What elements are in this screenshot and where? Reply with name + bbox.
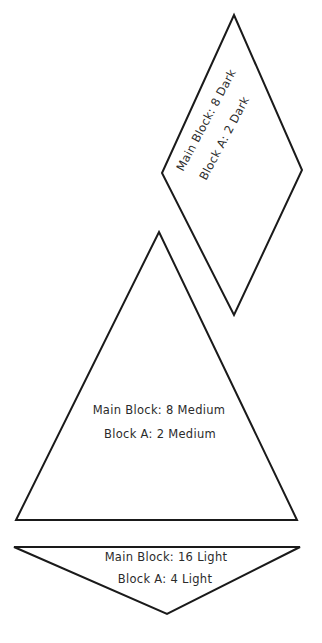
inverted-triangle-label-block-a: Block A: 4 Light — [118, 572, 213, 586]
inverted-triangle-label-main: Main Block: 16 Light — [105, 550, 228, 564]
inverted-triangle-piece: Main Block: 16 Light Block A: 4 Light — [14, 547, 300, 614]
triangle-piece: Main Block: 8 Medium Block A: 2 Medium — [16, 232, 297, 520]
triangle-label-block-a: Block A: 2 Medium — [104, 427, 216, 441]
quilt-template-diagram: Main Block: 8 Dark Block A: 2 Dark Main … — [0, 0, 322, 643]
diamond-piece: Main Block: 8 Dark Block A: 2 Dark — [162, 15, 302, 315]
triangle-label-main: Main Block: 8 Medium — [93, 403, 226, 417]
triangle-shape — [16, 232, 297, 520]
